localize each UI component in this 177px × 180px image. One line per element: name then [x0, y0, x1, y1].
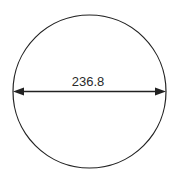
arrowhead-left-icon [13, 88, 24, 96]
arrowhead-right-icon [155, 88, 166, 96]
circle-diameter-diagram: 236.8 [0, 0, 177, 180]
diameter-label: 236.8 [72, 74, 105, 89]
